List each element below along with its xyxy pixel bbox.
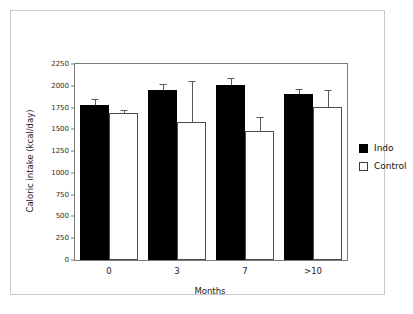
plot-area: 0250500750100012501500175020002250 037>1…: [74, 63, 348, 261]
bar-indo-0: [80, 105, 109, 260]
bar-indo-gt10: [284, 94, 313, 260]
x-tick-label: 3: [174, 267, 179, 276]
error-bar-stem: [231, 78, 232, 85]
y-tick-mark: [71, 260, 75, 261]
legend: IndoControl: [359, 141, 407, 177]
filled-square-icon: [359, 144, 368, 153]
y-tick-mark: [71, 85, 75, 86]
y-tick-mark: [71, 216, 75, 217]
error-bar-cap: [256, 117, 263, 118]
y-tick-mark: [71, 64, 75, 65]
error-bar-cap: [324, 90, 331, 91]
error-bar-stem: [328, 90, 329, 107]
y-tick-mark: [71, 151, 75, 152]
bar-indo-7: [216, 85, 245, 260]
error-bar-cap: [227, 78, 234, 79]
legend-label: Indo: [374, 144, 394, 153]
bar-control-0: [109, 113, 138, 260]
y-tick-mark: [71, 194, 75, 195]
y-tick-mark: [71, 107, 75, 108]
bar-control-gt10: [313, 107, 342, 260]
figure-frame: Caloric intake (kcal/day) 02505007501000…: [10, 10, 385, 295]
x-tick-label: 7: [242, 267, 247, 276]
error-bar-cap: [120, 110, 127, 111]
bar-indo-3: [148, 90, 177, 260]
legend-label: Control: [374, 162, 407, 171]
bar-control-3: [177, 122, 206, 260]
y-tick-mark: [71, 129, 75, 130]
error-bar-cap: [159, 84, 166, 85]
error-bar-stem: [260, 117, 261, 131]
error-bar-cap: [188, 81, 195, 82]
y-tick-mark: [71, 172, 75, 173]
x-axis-title: Months: [74, 286, 346, 296]
legend-item-indo: Indo: [359, 141, 407, 156]
x-tick-label: >10: [304, 267, 322, 276]
x-tick-label: 0: [106, 267, 111, 276]
error-bar-cap: [91, 99, 98, 100]
bar-control-7: [245, 131, 274, 260]
error-bar-stem: [192, 81, 193, 123]
y-tick-mark: [71, 238, 75, 239]
legend-item-control: Control: [359, 159, 407, 174]
open-square-icon: [359, 162, 368, 171]
error-bar-cap: [295, 89, 302, 90]
y-axis-title: Caloric intake (kcal/day): [23, 63, 37, 259]
